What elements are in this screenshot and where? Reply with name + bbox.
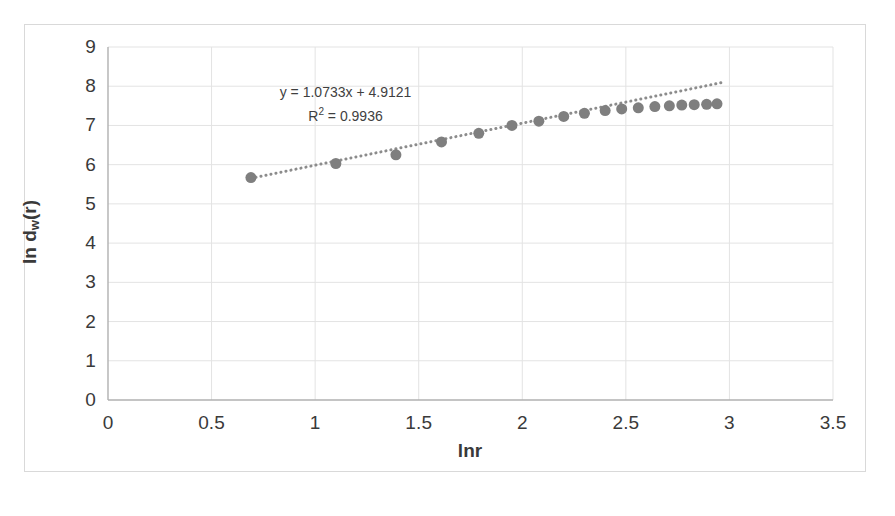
x-axis-tick-3.5: 3.5 — [820, 412, 847, 434]
y-axis-tick-2: 2 — [60, 311, 96, 333]
x-axis-tick-0.5: 0.5 — [198, 412, 225, 434]
x-axis-tick-1: 1 — [310, 412, 321, 434]
r-squared-number: = 0.9936 — [324, 108, 383, 124]
x-axis-tick-0: 0 — [103, 412, 114, 434]
y-axis-tick-5: 5 — [60, 193, 96, 215]
x-axis-tick-3: 3 — [724, 412, 735, 434]
chart-screenshot: 0123456789 00.511.522.533.5 ln dw(r) lnr… — [0, 0, 895, 516]
y-axis-tick-8: 8 — [60, 75, 96, 97]
axis-lines — [108, 47, 833, 400]
plot-canvas — [0, 0, 895, 516]
y-axis-tick-3: 3 — [60, 271, 96, 293]
scatter-chart: 0123456789 00.511.522.533.5 ln dw(r) lnr… — [0, 0, 895, 516]
r-squared-prefix: R — [308, 108, 318, 124]
x-axis-tick-1.5: 1.5 — [405, 412, 432, 434]
r-squared-value: R2 = 0.9936 — [253, 102, 438, 126]
x-axis-tick-2.5: 2.5 — [612, 412, 639, 434]
x-axis-tick-2: 2 — [517, 412, 528, 434]
y-axis-title-base: ln d — [19, 230, 40, 264]
y-axis-title: ln dw(r) — [19, 200, 41, 264]
y-axis-tick-6: 6 — [60, 154, 96, 176]
y-axis-tick-0: 0 — [60, 389, 96, 411]
y-axis-tick-9: 9 — [60, 36, 96, 58]
y-axis-title-tail: (r) — [19, 200, 40, 220]
y-axis-tick-1: 1 — [60, 350, 96, 372]
y-axis-tick-4: 4 — [60, 232, 96, 254]
y-axis-tick-7: 7 — [60, 114, 96, 136]
y-axis-title-subscript: w — [27, 220, 42, 230]
gridlines-horizontal — [108, 47, 833, 361]
x-axis-title: lnr — [458, 440, 482, 462]
trendline-equation-annotation: y = 1.0733x + 4.9121 R2 = 0.9936 — [253, 83, 438, 126]
regression-equation: y = 1.0733x + 4.9121 — [253, 83, 438, 102]
